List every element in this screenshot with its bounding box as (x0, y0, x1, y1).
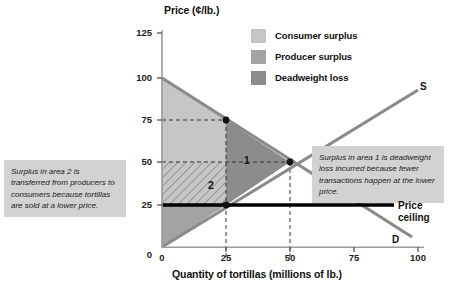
x-axis-title: Quantity of tortillas (millions of lb.) (172, 268, 342, 280)
chart-canvas (0, 0, 458, 288)
chart-figure: Price (¢/lb.) Quantity of tortillas (mil… (0, 0, 458, 288)
x-tick-label-50: 50 (277, 252, 303, 263)
region-label-deadweight: 1 (244, 155, 250, 166)
region-transferred-surplus (162, 162, 226, 205)
demand-curve-label: D (392, 234, 399, 245)
legend-label-producer-surplus: Producer surplus (275, 51, 352, 62)
y-tick-label-50: 50 (126, 156, 152, 167)
annotation-deadweight-note: Surplus in area 1 is deadweight loss inc… (312, 146, 444, 203)
y-tick-label-75: 75 (126, 114, 152, 125)
x-tick-label-25: 25 (213, 252, 239, 263)
y-axis-title: Price (¢/lb.) (164, 4, 219, 16)
legend-item-producer-surplus: Producer surplus (251, 48, 357, 65)
x-tick-label-100: 100 (405, 252, 431, 263)
y-tick-label-125: 125 (126, 27, 152, 38)
data-point-25-25 (223, 202, 230, 209)
chart-legend: Consumer surplus Producer surplus Deadwe… (251, 27, 357, 90)
legend-label-deadweight-loss: Deadweight loss (275, 72, 348, 83)
y-tick-label-100: 100 (126, 72, 152, 83)
legend-swatch-deadweight-loss (251, 71, 266, 85)
legend-item-deadweight-loss: Deadweight loss (251, 69, 357, 86)
supply-curve-label: S (420, 81, 427, 92)
data-point-25-75 (223, 117, 230, 124)
region-label-transfer: 2 (208, 179, 214, 191)
data-point-50-50 (287, 159, 294, 166)
legend-swatch-producer-surplus (251, 50, 266, 64)
x-tick-label-75: 75 (341, 252, 367, 263)
y-tick-label-25: 25 (126, 199, 152, 210)
legend-swatch-consumer-surplus (251, 29, 266, 43)
x-tick-label-0: 0 (149, 252, 175, 263)
annotation-transfer-note: Surplus in area 2 is transferred from pr… (4, 160, 126, 217)
legend-label-consumer-surplus: Consumer surplus (275, 30, 357, 41)
legend-item-consumer-surplus: Consumer surplus (251, 27, 357, 44)
price-ceiling-label: Priceceiling (398, 200, 430, 223)
